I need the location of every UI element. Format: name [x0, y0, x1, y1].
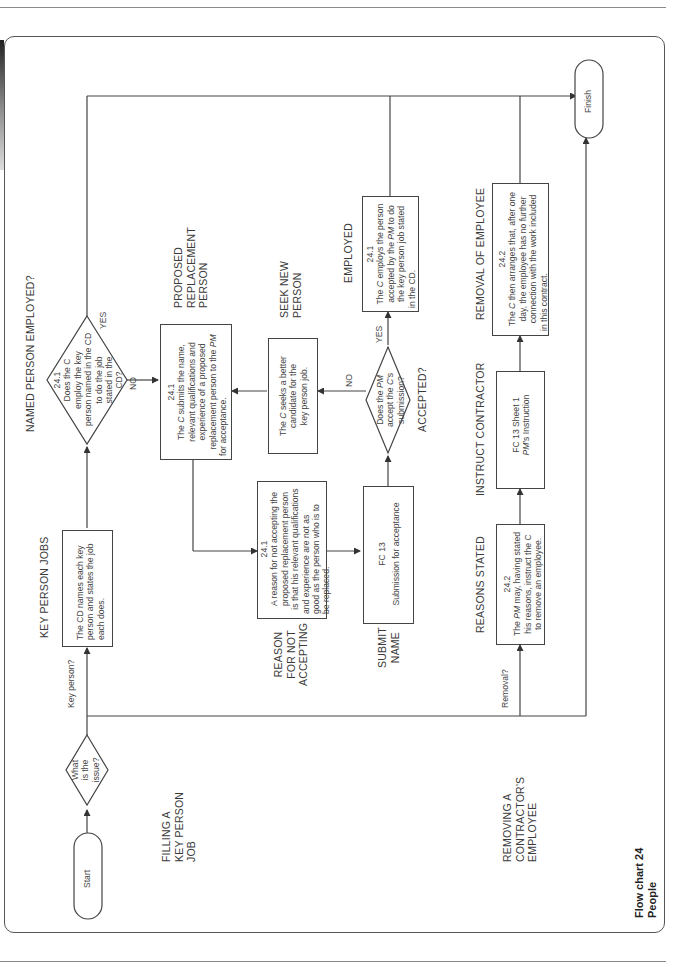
- heading-reasons-stated: REASONS STATED: [474, 536, 487, 633]
- issue-diamond-text: Whatis theissue?: [70, 750, 101, 790]
- key-person-branch-label: Key person?: [66, 660, 76, 708]
- named-no-label: NO: [128, 377, 138, 390]
- flowchart-title: Flow chart 24People: [633, 848, 658, 918]
- heading-seek-new-person: SEEK NEWPERSON: [278, 261, 303, 318]
- named-yes-label: YES: [98, 312, 108, 329]
- heading-instruct-contractor: INSTRUCT CONTRACTOR: [474, 363, 487, 497]
- heading-reason-for-not-accepting: REASONFOR NOTACCEPTING: [272, 623, 310, 686]
- accepted-diamond-text: Does the PMaccept the C'ssubmission?: [375, 368, 406, 432]
- accepted-no-label: NO: [344, 374, 354, 387]
- heading-removal-of-employee: REMOVAL OF EMPLOYEE: [474, 188, 487, 320]
- heading-accepted: ACCEPTED?: [416, 367, 429, 432]
- seek-box-text: The C seeks a better candidate for the k…: [278, 342, 309, 450]
- proposed-box-text: 24.1 The C submits the name, relevant qu…: [166, 328, 228, 456]
- heading-named-person-employed: NAMED PERSON EMPLOYED?: [24, 275, 37, 432]
- reason-box-text: 24.1 A reason for not accepting the prop…: [259, 484, 332, 614]
- reasons-stated-box-text: 24.2 The PM may, having stated his reaso…: [502, 528, 544, 640]
- key-person-box-text: The CD names each keyperson and states t…: [75, 530, 106, 640]
- employed-box-text: 24.1 The C employs the person accepted b…: [365, 200, 417, 308]
- section-removing-contractors-employee: REMOVING ACONTRACTOR'SEMPLOYEE: [501, 777, 539, 862]
- heading-key-person-jobs: KEY PERSON JOBS: [38, 537, 51, 638]
- fc13-submission-text: FC 13 Submission for acceptance: [377, 500, 402, 608]
- removal-branch-label: Removal?: [500, 669, 510, 708]
- heading-employed: EMPLOYED: [342, 223, 355, 283]
- named-diamond-text: 24.1Does the Cemploy the keyperson named…: [52, 334, 125, 426]
- connector-lines: [0, 0, 698, 969]
- removal-box-text: 24.2 The C then arranges that, after one…: [497, 187, 549, 331]
- heading-proposed-replacement: PROPOSEDREPLACEMENTPERSON: [172, 227, 210, 308]
- finish-label: Finish: [583, 90, 593, 113]
- section-filling-key-person-job: FILLING AKEY PERSONJOB: [160, 792, 198, 862]
- heading-submit-name: SUBMITNAME: [376, 627, 401, 668]
- start-label: Start: [82, 870, 92, 888]
- accepted-yes-label: YES: [374, 326, 384, 343]
- fc13-instruction-text: FC 13 Sheet 1 PM's Instruction: [511, 380, 532, 470]
